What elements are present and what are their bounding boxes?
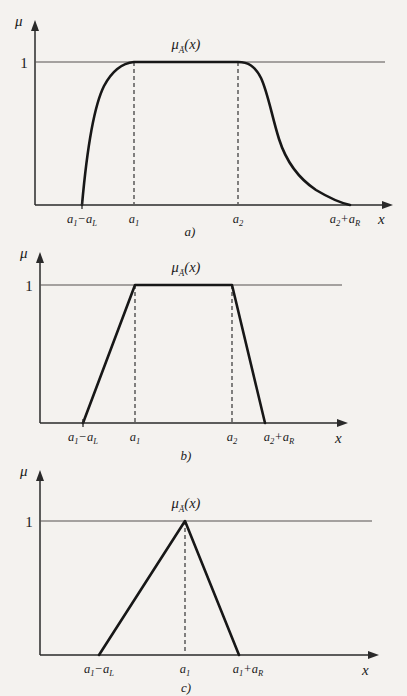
x-tick-label-c-1: a1−aL <box>84 662 114 678</box>
function-label-b: μÃ(x) <box>171 259 201 278</box>
x-tick-label-b-3: a2 <box>227 430 238 446</box>
membership-curve-a <box>82 62 350 205</box>
function-label-a: μÃ(x) <box>171 36 201 55</box>
x-tick-label-b-2: a1 <box>130 430 141 446</box>
y-axis-label-c: μ <box>19 463 28 479</box>
membership-curve-c <box>99 521 239 655</box>
panel-caption-c: c) <box>181 680 191 695</box>
y-axis-label-b: μ <box>19 245 28 261</box>
x-tick-label-a-3: a2 <box>233 212 244 228</box>
y-axis-c <box>36 470 44 655</box>
chart-panel-a: 1 μ x μÃ(x) a1−aL a1 a2 a2+aR <box>0 0 407 238</box>
x-axis-label-a: x <box>377 211 385 227</box>
y-axis-a <box>31 20 39 205</box>
x-axis-c <box>40 651 379 659</box>
y-tick-label-b: 1 <box>25 278 33 294</box>
panel-caption-a: a) <box>185 224 196 238</box>
function-label-c: μÃ(x) <box>171 495 201 514</box>
y-axis-b <box>36 252 44 423</box>
x-tick-label-c-2: a1 <box>180 662 191 678</box>
x-tick-label-a-2: a1 <box>129 212 140 228</box>
x-axis-b <box>40 419 348 427</box>
x-tick-label-a-1: a1−aL <box>67 212 97 228</box>
y-tick-label-a: 1 <box>20 55 28 71</box>
x-tick-label-b-4: a2+aR <box>264 430 295 446</box>
x-tick-label-c-3: a1+aR <box>233 662 264 678</box>
x-tick-label-b-1: a1−aL <box>68 430 98 446</box>
panel-caption-b: b) <box>181 448 192 463</box>
y-tick-label-c: 1 <box>25 514 33 530</box>
x-axis-label-c: x <box>361 662 369 678</box>
figure-page: 1 μ x μÃ(x) a1−aL a1 a2 a2+aR <box>0 0 407 696</box>
x-axis-label-b: x <box>334 430 342 446</box>
y-axis-label-a: μ <box>14 13 23 29</box>
x-tick-label-a-4: a2+aR <box>330 212 361 228</box>
chart-panel-c: 1 μ x μÃ(x) a1−aL a1 a1+aR c) <box>0 463 407 696</box>
chart-panel-b: 1 μ x μÃ(x) a1−aL a1 a2 a2+aR b) <box>0 238 407 463</box>
membership-curve-b <box>83 285 265 423</box>
